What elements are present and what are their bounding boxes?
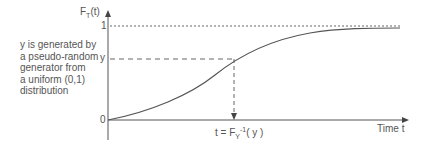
cdf-curve (108, 28, 400, 120)
inverse-cdf-label: t = FY-1( y ) (215, 126, 263, 140)
x-axis-label: Time t (377, 123, 404, 134)
y-axis-arrow-icon (105, 10, 111, 17)
down-arrow-icon (231, 113, 237, 120)
cdf-diagram (0, 0, 426, 144)
tick-zero: 0 (100, 114, 106, 125)
tick-y: y (100, 52, 105, 63)
y-axis-label: FT(t) (80, 6, 100, 19)
tick-one: 1 (101, 20, 107, 31)
